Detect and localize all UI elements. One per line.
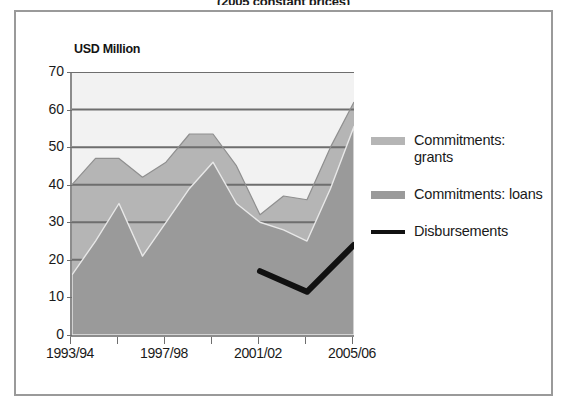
- legend-line-swatch-icon: [371, 230, 405, 234]
- legend-color-swatch-icon: [371, 137, 405, 145]
- x-axis-tickmark: [305, 337, 306, 344]
- y-axis-tickmark: [67, 72, 72, 73]
- x-axis-tick-label: 1993/94: [46, 345, 94, 361]
- chart-title: (2005 constant prices): [0, 0, 567, 5]
- y-axis-tickmark: [67, 297, 72, 298]
- x-axis-tickmark: [352, 337, 353, 344]
- x-axis-tickmark: [211, 337, 212, 344]
- y-axis-tick-label: 20: [30, 251, 64, 267]
- x-axis-tickmarks: [70, 337, 354, 345]
- y-axis-tick-label: 60: [30, 101, 64, 117]
- y-axis-tick-label: 40: [30, 176, 64, 192]
- y-axis-tick-label: 0: [30, 326, 64, 342]
- x-axis-tickmark: [117, 337, 118, 344]
- y-axis-tickmark: [67, 260, 72, 261]
- y-axis-tickmark: [67, 222, 72, 223]
- x-axis-tickmark: [70, 337, 71, 344]
- y-axis-tick-labels: 010203040506070: [26, 72, 64, 335]
- legend-item-label: Commitments: grants: [414, 132, 546, 166]
- x-axis-tickmark: [258, 337, 259, 344]
- legend-item: Commitments: loans: [371, 186, 546, 203]
- chart-legend: Commitments: grantsCommitments: loansDis…: [371, 132, 546, 260]
- legend-color-swatch-icon: [371, 191, 405, 199]
- x-axis-tick-label: 2005/06: [328, 345, 376, 361]
- x-axis-tick-label: 2001/02: [234, 345, 282, 361]
- chart-plot-svg: [72, 72, 354, 335]
- x-axis-tick-labels: 1993/941997/982001/022005/06: [70, 345, 360, 369]
- y-axis-tickmark: [67, 147, 72, 148]
- legend-item: Commitments: grants: [371, 132, 546, 166]
- y-axis-tick-label: 70: [30, 63, 64, 79]
- y-axis-tick-label: 50: [30, 138, 64, 154]
- y-axis-tickmark: [67, 185, 72, 186]
- y-axis-unit-label: USD Million: [74, 42, 140, 56]
- legend-item-label: Disbursements: [414, 223, 508, 240]
- x-axis-tick-label: 1997/98: [140, 345, 188, 361]
- plot-area: [70, 72, 354, 337]
- x-axis-tickmark: [164, 337, 165, 344]
- y-axis-tickmark: [67, 335, 72, 336]
- legend-item-label: Commitments: loans: [414, 186, 543, 203]
- legend-item: Disbursements: [371, 223, 546, 240]
- y-axis-tick-label: 10: [30, 288, 64, 304]
- y-axis-tick-label: 30: [30, 213, 64, 229]
- y-axis-tickmark: [67, 110, 72, 111]
